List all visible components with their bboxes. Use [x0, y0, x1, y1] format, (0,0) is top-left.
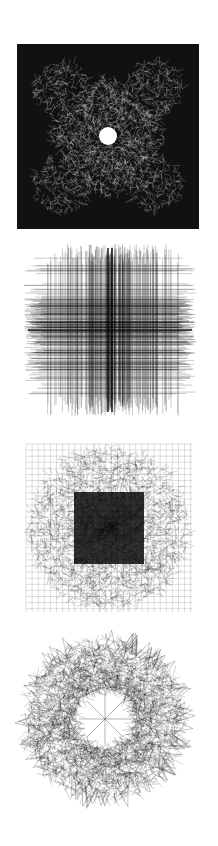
graph-panel-4	[15, 628, 195, 810]
mesh-layout	[22, 440, 196, 616]
ring-layout	[15, 628, 195, 810]
graph-panel-3	[22, 440, 196, 616]
dense-square-layout	[17, 44, 199, 229]
grid-layout	[20, 240, 200, 420]
graph-panel-2	[20, 240, 200, 420]
graph-panel-1	[17, 44, 199, 229]
